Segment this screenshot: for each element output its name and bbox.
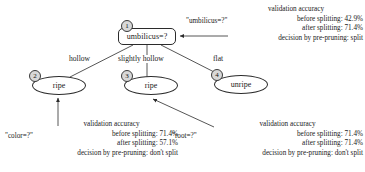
annotation-root-after: after splitting: 71.4% [229,24,363,34]
annotation-right-before: before splitting: 71.4% [212,130,363,140]
decision-tree-figure: umbilicus=? 1 ripe 2 ripe 3 unripe 4 hol… [0,0,365,172]
node-root-label: umbilicus=? [127,33,168,41]
annotation-root-decision: decision by pre-pruning: split [229,34,363,44]
annotation-root-before: before splitting: 42.9% [229,15,363,25]
edge-label-flat: flat [212,55,224,63]
annotation-left-decision: decision by pre-pruning: don't split [45,149,178,159]
annotation-right-title: validation accuracy [212,120,363,130]
annotation-right-after: after splitting: 71.4% [212,139,363,149]
node-leaf-3-label: ripe [145,82,157,90]
node-badge-2: 2 [29,70,41,82]
node-badge-3: 3 [121,70,133,82]
annotation-right: validation accuracy before splitting: 71… [212,120,363,158]
node-badge-4: 4 [211,69,223,81]
annotation-attribute-root: "root=?" [172,133,197,140]
annotation-right-decision: decision by pre-pruning: don't split [212,149,363,159]
annotation-attribute-umbilicus: "umbilicus=?" [186,18,227,25]
annotation-left-title: validation accuracy [45,120,178,130]
node-leaf-4-label: unripe [231,81,251,89]
annotation-left: validation accuracy before splitting: 71… [45,120,178,158]
annotation-left-after: after splitting: 57.1% [45,139,178,149]
annotation-attribute-color: "color=?" [5,133,33,140]
node-leaf-2-label: ripe [53,82,65,90]
annotation-root: validation accuracy before splitting: 42… [229,5,363,43]
edge-label-hollow: hollow [68,55,91,63]
annotation-left-before: before splitting: 71.4% [45,130,178,140]
annotation-root-title: validation accuracy [229,5,363,15]
node-badge-1: 1 [121,20,133,32]
edge-label-slightly-hollow: slightly hollow [117,55,165,63]
